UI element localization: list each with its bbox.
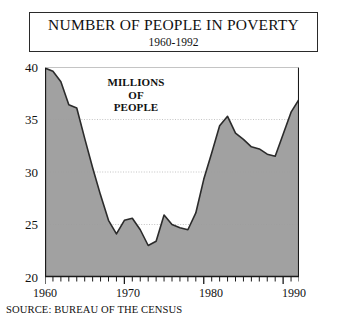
annotation-line-1: MILLIONS (90, 76, 182, 89)
y-tick-label-25: 25 (8, 218, 38, 231)
y-tick-label-30: 30 (8, 166, 38, 179)
chart-title-box: NUMBER OF PEOPLE IN POVERTY 1960-1992 (29, 12, 318, 52)
chart-annotation: MILLIONS OF PEOPLE (90, 76, 182, 114)
y-tick-label-35: 35 (8, 113, 38, 126)
annotation-line-2: OF (90, 89, 182, 102)
y-tick-label-20: 20 (8, 271, 38, 284)
chart-subtitle: 1960-1992 (30, 35, 317, 49)
x-tick-label-1980: 1980 (191, 287, 231, 299)
poverty-chart-figure: NUMBER OF PEOPLE IN POVERTY 1960-1992 40… (0, 0, 354, 325)
page-title: NUMBER OF PEOPLE IN POVERTY (30, 15, 317, 35)
x-tick-label-1970: 1970 (108, 287, 148, 299)
annotation-line-3: PEOPLE (90, 101, 182, 114)
x-tick-label-1960: 1960 (25, 287, 65, 299)
y-tick-label-40: 40 (8, 61, 38, 74)
x-tick-label-1990: 1990 (274, 287, 314, 299)
source-note: SOURCE: BUREAU OF THE CENSUS (6, 304, 182, 316)
